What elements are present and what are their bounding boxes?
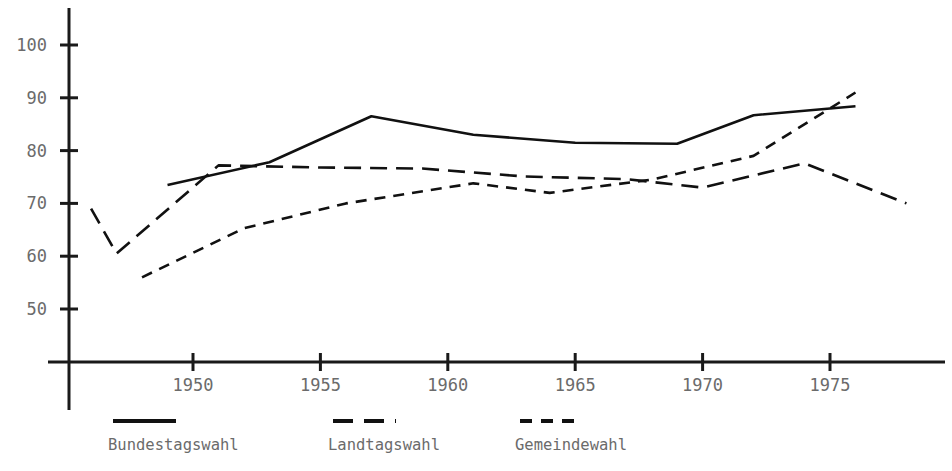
y-axis-tick-label: 70: [27, 193, 47, 213]
y-axis-tick-label: 50: [27, 299, 47, 319]
x-axis-tick-label: 1970: [682, 375, 723, 395]
legend-label-gemeindewahl: Gemeindewahl: [515, 436, 627, 454]
x-axis-tick-label: 1965: [555, 375, 596, 395]
y-axis-tick-label: 80: [27, 141, 47, 161]
x-axis-tick-label: 1950: [173, 375, 214, 395]
chart-canvas: 5060708090100 195019551960196519701975 B…: [0, 0, 952, 471]
x-axis-tick-label: 1955: [300, 375, 341, 395]
y-axis-tick-label: 60: [27, 246, 47, 266]
y-axis-tick-label: 100: [16, 35, 47, 55]
x-axis-tick-label: 1975: [810, 375, 851, 395]
y-axis-tick-label: 90: [27, 88, 47, 108]
legend-label-landtagswahl: Landtagswahl: [328, 436, 440, 454]
chart-background: [0, 0, 952, 471]
line-chart: 5060708090100 195019551960196519701975 B…: [0, 0, 952, 471]
x-axis-tick-label: 1960: [427, 375, 468, 395]
legend-label-bundestagswahl: Bundestagswahl: [108, 436, 239, 454]
